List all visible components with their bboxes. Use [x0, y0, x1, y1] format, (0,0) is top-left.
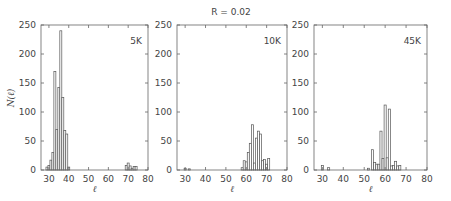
x-tick-label: 70 — [400, 174, 412, 184]
histogram-bar — [388, 109, 390, 170]
y-tick-label: 200 — [292, 49, 309, 59]
y-tick-label: 200 — [155, 49, 172, 59]
y-tick-label: 200 — [19, 49, 36, 59]
x-tick-label: 70 — [122, 174, 134, 184]
y-tick-label: 50 — [298, 136, 310, 146]
y-tick-label: 250 — [292, 20, 309, 30]
panel-label: 10K — [264, 36, 282, 46]
x-tick-label: 60 — [241, 174, 253, 184]
x-tick-label: 30 — [43, 174, 55, 184]
y-tick-label: 100 — [292, 107, 309, 117]
y-tick-label: 150 — [19, 78, 36, 88]
x-axis-label: ℓ — [369, 184, 373, 194]
x-tick-label: 30 — [179, 174, 191, 184]
x-tick-label: 80 — [142, 174, 154, 184]
panel-10k: 304050607080050100150200250ℓ10K — [155, 20, 293, 194]
y-axis-label: N(ℓ) — [6, 88, 16, 108]
x-axis-label: ℓ — [230, 184, 234, 194]
panel-label: 45K — [404, 36, 422, 46]
histogram-bar — [268, 158, 270, 170]
x-tick-label: 40 — [63, 174, 75, 184]
x-tick-label: 80 — [421, 174, 433, 184]
y-tick-label: 150 — [155, 78, 172, 88]
x-tick-label: 60 — [103, 174, 115, 184]
panel-label: 5K — [130, 36, 143, 46]
x-tick-label: 50 — [220, 174, 232, 184]
chart-title: R = 0.02 — [211, 7, 251, 17]
histogram-bar — [66, 134, 68, 170]
y-tick-label: 250 — [155, 20, 172, 30]
y-tick-label: 150 — [292, 78, 309, 88]
histogram-bar — [135, 167, 137, 170]
x-tick-label: 50 — [358, 174, 370, 184]
x-tick-label: 60 — [379, 174, 391, 184]
y-tick-label: 0 — [303, 165, 309, 175]
y-tick-label: 0 — [30, 165, 36, 175]
panel-45k: 304050607080050100150200250ℓ45K — [292, 20, 433, 194]
x-tick-label: 40 — [338, 174, 350, 184]
y-tick-label: 100 — [19, 107, 36, 117]
plot-frame — [177, 25, 287, 170]
y-tick-label: 50 — [161, 136, 173, 146]
histogram-figure: R = 0.02 N(ℓ) 30405060708005010015020025… — [0, 0, 451, 201]
x-axis-label: ℓ — [93, 184, 97, 194]
y-tick-label: 100 — [155, 107, 172, 117]
plot-frame — [314, 25, 427, 170]
y-tick-label: 250 — [19, 20, 36, 30]
x-tick-label: 30 — [317, 174, 329, 184]
histogram-bar — [399, 165, 401, 170]
x-tick-label: 40 — [200, 174, 212, 184]
x-tick-label: 80 — [281, 174, 293, 184]
x-tick-label: 70 — [261, 174, 273, 184]
panel-5k: 304050607080050100150200250ℓ5K — [19, 20, 154, 194]
y-tick-label: 0 — [166, 165, 172, 175]
y-tick-label: 50 — [25, 136, 37, 146]
x-tick-label: 50 — [83, 174, 95, 184]
